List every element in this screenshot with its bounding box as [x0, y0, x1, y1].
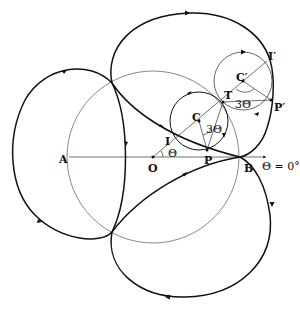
- label-three-theta-C: 3Θ: [206, 123, 222, 136]
- label-C: C: [192, 111, 201, 124]
- label-T: T: [224, 89, 233, 102]
- arrow-icon: [254, 112, 259, 116]
- bottom-lobe-inner-edge: [112, 157, 240, 232]
- label-C-prime: C′: [236, 71, 248, 84]
- label-A: A: [58, 153, 68, 166]
- label-three-theta-C-prime: 3Θ: [235, 98, 251, 111]
- left-lobe-inner-edge: [112, 83, 126, 232]
- inner-edge-top: [112, 83, 240, 157]
- construction-lines: [153, 61, 271, 157]
- label-I-prime: I′: [268, 50, 276, 63]
- label-O: O: [148, 162, 158, 175]
- label-P-prime: P′: [274, 101, 285, 114]
- arrow-icon: [241, 50, 246, 55]
- label-B: B: [244, 162, 253, 175]
- rolling-circle-diagram: A O B P I C T C′ I′ P′ Θ 3Θ 3Θ Θ = 0°: [0, 0, 300, 311]
- bottom-lobe-curve: [111, 157, 270, 297]
- label-P: P: [204, 154, 212, 167]
- label-theta: Θ: [168, 147, 177, 160]
- label-axis-theta-zero: Θ = 0°: [262, 160, 300, 173]
